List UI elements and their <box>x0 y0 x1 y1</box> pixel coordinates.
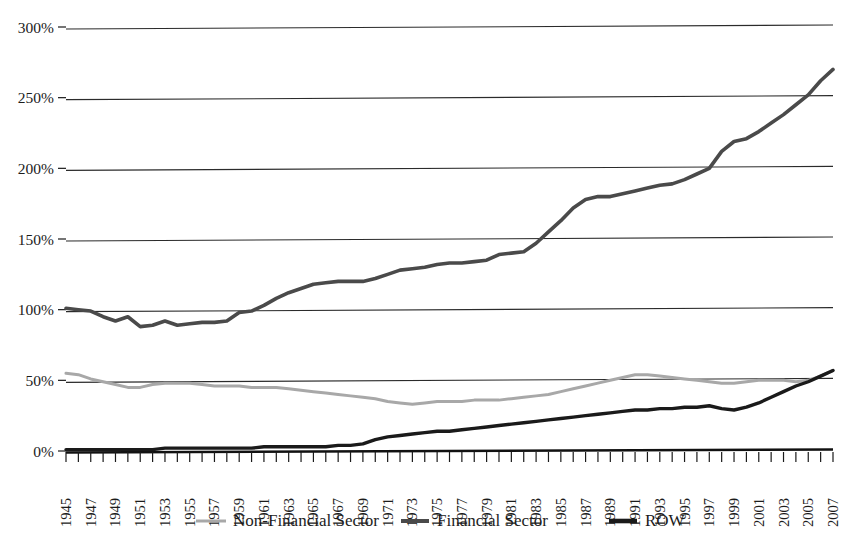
x-tick-label: 1953 <box>157 498 173 527</box>
data-series-group <box>66 69 833 449</box>
series-line-financial-sector <box>66 69 833 326</box>
x-axis-tick-marks <box>66 452 833 462</box>
x-tick-label: 1945 <box>58 498 74 527</box>
x-tick-label: 1971 <box>380 498 396 527</box>
gridline-100 <box>66 308 833 312</box>
gridlines-group <box>66 25 833 453</box>
y-tick-label: 300% <box>18 19 54 36</box>
x-tick-label: 2005 <box>800 498 816 527</box>
x-tick-label: 1949 <box>107 498 123 527</box>
x-tick-label: 1957 <box>206 498 222 527</box>
x-tick-label: 1947 <box>83 498 99 527</box>
legend-label: Financial Sector <box>437 511 548 530</box>
chart-container: 0%50%100%150%200%250%300% 19451947194919… <box>0 0 854 543</box>
legend-label: Non-Financial Sector <box>233 511 379 530</box>
y-tick-label: 50% <box>26 372 55 389</box>
gridline-250 <box>66 96 833 100</box>
x-tick-label: 1987 <box>578 498 594 527</box>
y-tick-label: 0% <box>33 443 54 460</box>
series-line-non-financial-sector <box>66 370 833 404</box>
y-tick-label: 200% <box>18 160 54 177</box>
y-tick-label: 250% <box>18 89 54 106</box>
y-tick-label: 150% <box>18 231 54 248</box>
gridline-300 <box>66 25 833 29</box>
x-tick-label: 2003 <box>776 498 792 527</box>
line-chart: 0%50%100%150%200%250%300% 19451947194919… <box>0 0 854 543</box>
x-tick-label: 2001 <box>751 498 767 527</box>
legend-label: ROW <box>645 511 686 530</box>
x-tick-label: 1997 <box>701 498 717 527</box>
x-tick-label: 2007 <box>825 498 841 527</box>
x-tick-label: 1999 <box>726 498 742 527</box>
x-tick-label: 1951 <box>132 498 148 527</box>
y-axis-tick-labels: 0%50%100%150%200%250%300% <box>18 19 66 460</box>
gridline-200 <box>66 166 833 170</box>
y-tick-label: 100% <box>18 301 54 318</box>
x-tick-label: 1955 <box>182 498 198 527</box>
x-tick-label: 1985 <box>553 498 569 527</box>
gridline-150 <box>66 237 833 241</box>
